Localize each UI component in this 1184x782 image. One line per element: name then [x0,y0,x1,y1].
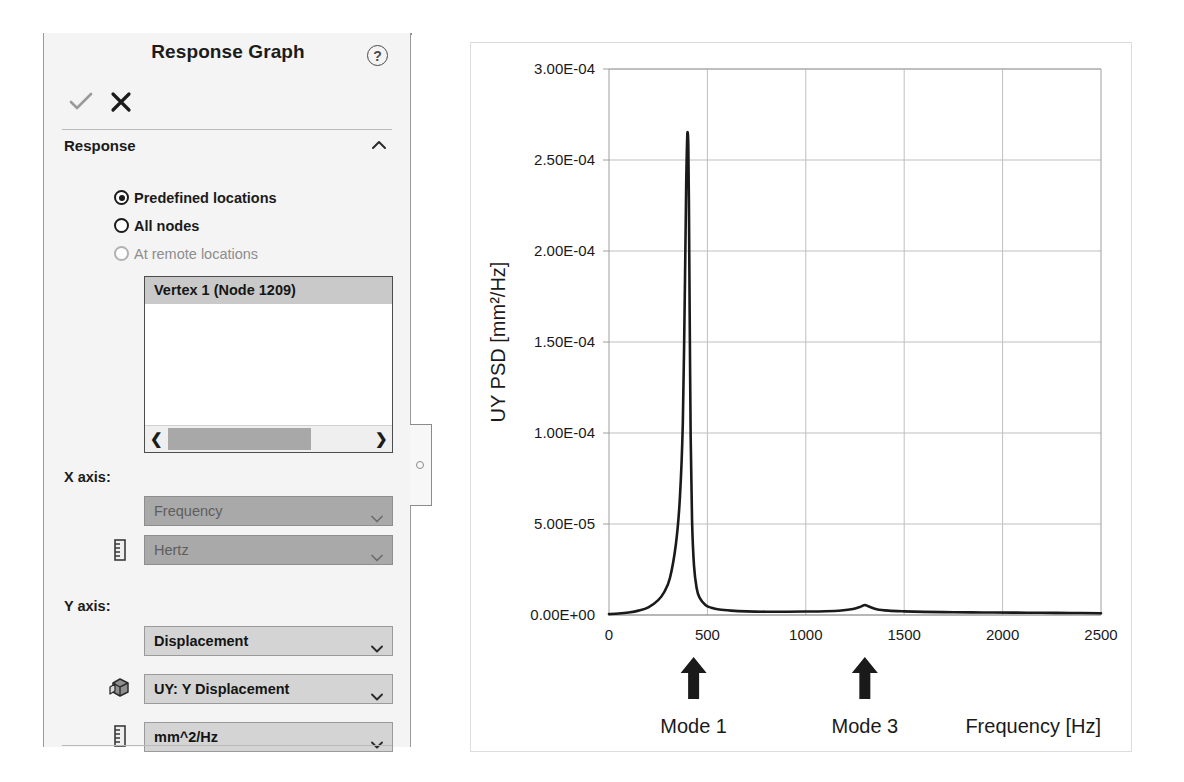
chart-gridlines [609,69,1101,615]
list-item[interactable]: Vertex 1 (Node 1209) [145,277,392,304]
svg-text:1.50E-04: 1.50E-04 [534,333,595,350]
horizontal-scrollbar[interactable]: ❮ ❯ [145,425,392,452]
radio-label: Predefined locations [134,190,277,206]
check-icon[interactable] [66,87,96,117]
solid-body-icon [106,674,134,702]
svg-text:500: 500 [695,626,720,643]
response-graph-chart: 0.00E+005.00E-051.00E-041.50E-042.00E-04… [470,42,1132,752]
radio-predefined-locations[interactable]: Predefined locations [114,190,277,214]
x-axis-unit-value: Hertz [154,542,189,558]
panel-splitter-handle[interactable] [410,424,432,506]
chevron-down-icon [371,684,383,696]
close-icon[interactable] [106,87,136,117]
svg-text:Mode 3: Mode 3 [831,715,898,737]
svg-text:1000: 1000 [789,626,822,643]
chart-data-line [609,132,1101,614]
svg-text:2.00E-04: 2.00E-04 [534,242,595,259]
section-header-response: Response [64,137,136,154]
divider-bottom [62,745,392,746]
svg-text:3.00E-04: 3.00E-04 [534,60,595,77]
svg-text:1.00E-04: 1.00E-04 [534,424,595,441]
y-axis-label: Y axis: [64,598,111,614]
radio-label: All nodes [134,218,199,234]
locations-listbox[interactable]: Vertex 1 (Node 1209) ❮ ❯ [144,276,393,453]
page-title: Response Graph [44,41,412,63]
y-axis-quantity-select[interactable]: Displacement [144,626,393,656]
divider-top [62,129,392,130]
splitter-grip-dot [416,461,424,469]
x-axis-quantity-value: Frequency [154,503,223,519]
y-axis-unit-value: mm^2/Hz [154,729,218,745]
chevron-down-icon [371,636,383,648]
svg-text:2.50E-04: 2.50E-04 [534,151,595,168]
chevron-right-icon[interactable]: ❯ [371,426,391,452]
help-circle-icon[interactable]: ? [367,45,388,66]
svg-text:2500: 2500 [1084,626,1117,643]
x-axis-unit-select[interactable]: Hertz [144,535,393,565]
x-axis-quantity-select[interactable]: Frequency [144,496,393,526]
radio-indicator [114,246,129,261]
svg-text:1500: 1500 [888,626,921,643]
panel-action-row [44,85,412,125]
x-axis-label: X axis: [64,469,111,485]
radio-indicator [114,190,129,205]
chevron-down-icon [371,545,383,557]
chevron-down-icon [371,506,383,518]
chart-y-tick-labels: 0.00E+005.00E-051.00E-041.50E-042.00E-04… [530,60,609,623]
svg-text:Frequency [Hz]: Frequency [Hz] [965,715,1101,737]
chevron-left-icon[interactable]: ❮ [146,426,166,452]
chevron-up-icon[interactable] [370,137,388,153]
y-axis-component-select[interactable]: UY: Y Displacement [144,674,393,704]
svg-text:0.00E+00: 0.00E+00 [530,606,595,623]
radio-indicator [114,218,129,233]
svg-text:Mode 1: Mode 1 [660,715,727,737]
y-axis-quantity-value: Displacement [154,633,248,649]
chart-x-tick-labels: 05001000150020002500 [605,626,1118,643]
psd-chart-svg: 0.00E+005.00E-051.00E-041.50E-042.00E-04… [471,43,1131,751]
radio-all-nodes[interactable]: All nodes [114,218,199,242]
svg-text:0: 0 [605,626,613,643]
svg-text:5.00E-05: 5.00E-05 [534,515,595,532]
scrollbar-thumb[interactable] [168,428,311,450]
svg-text:UY PSD [mm²/Hz]: UY PSD [mm²/Hz] [487,262,509,423]
chart-annotations: Mode 1Mode 3 [660,657,898,737]
radio-label: At remote locations [134,246,258,262]
radio-at-remote-locations: At remote locations [114,246,258,270]
svg-text:2000: 2000 [986,626,1019,643]
ruler-icon [106,536,134,564]
chevron-down-icon [371,732,383,744]
y-axis-component-value: UY: Y Displacement [154,681,289,697]
y-axis-unit-select[interactable]: mm^2/Hz [144,722,393,752]
response-graph-property-panel: Response Graph ? Response Predefined loc… [43,33,411,747]
